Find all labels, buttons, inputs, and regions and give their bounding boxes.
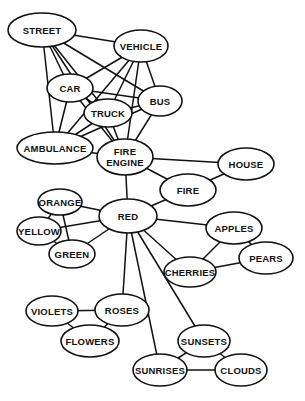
node-label: SUNSETS: [181, 336, 227, 347]
node-orange: ORANGE: [38, 189, 82, 215]
node-label: ENGINE: [106, 157, 144, 168]
node-label: AMBULANCE: [23, 143, 86, 154]
node-label: YELLOW: [18, 226, 60, 237]
node-label: FIRE: [177, 185, 199, 196]
node-label: APPLES: [214, 223, 253, 234]
node-fire: FIRE: [160, 174, 216, 206]
node-label: CLOUDS: [220, 365, 261, 376]
node-label: GREEN: [55, 249, 90, 260]
node-label: STREET: [23, 25, 62, 36]
node-red: RED: [99, 199, 157, 233]
node-label: VIOLETS: [31, 306, 73, 317]
node-cherries: CHERRIES: [164, 257, 216, 287]
node-label: TRUCK: [91, 108, 125, 119]
node-clouds: CLOUDS: [215, 354, 267, 386]
node-car: CAR: [47, 74, 93, 102]
node-ambulance: AMBULANCE: [17, 132, 93, 164]
node-violets: VIOLETS: [26, 296, 78, 326]
semantic-network-diagram: STREETVEHICLECARBUSTRUCKAMBULANCEFIREENG…: [0, 0, 305, 401]
node-fire-engine: FIREENGINE: [97, 139, 153, 175]
node-label: ORANGE: [39, 197, 82, 208]
edge-red-sunrises: [128, 216, 160, 370]
node-sunsets: SUNSETS: [178, 325, 230, 357]
node-label: ROSES: [105, 305, 139, 316]
node-roses: ROSES: [95, 294, 149, 326]
node-label: FIRE: [114, 146, 136, 157]
node-truck: TRUCK: [84, 99, 132, 127]
node-label: RED: [118, 211, 139, 222]
node-flowers: FLOWERS: [61, 325, 119, 357]
node-green: GREEN: [49, 240, 95, 268]
node-vehicle: VEHICLE: [114, 30, 168, 62]
node-apples: APPLES: [206, 212, 262, 244]
node-label: CAR: [59, 83, 80, 94]
node-bus: BUS: [138, 86, 182, 116]
node-label: VEHICLE: [120, 41, 163, 52]
node-pears: PEARS: [239, 242, 293, 274]
node-label: PEARS: [249, 253, 283, 264]
node-label: FLOWERS: [66, 336, 115, 347]
node-label: HOUSE: [229, 159, 264, 170]
node-street: STREET: [8, 13, 76, 47]
node-label: CHERRIES: [165, 267, 216, 278]
node-sunrises: SUNRISES: [133, 354, 187, 386]
node-label: SUNRISES: [135, 365, 185, 376]
node-label: BUS: [150, 96, 171, 107]
node-house: HOUSE: [218, 148, 274, 180]
node-yellow: YELLOW: [17, 217, 61, 245]
nodes-layer: STREETVEHICLECARBUSTRUCKAMBULANCEFIREENG…: [8, 13, 293, 386]
